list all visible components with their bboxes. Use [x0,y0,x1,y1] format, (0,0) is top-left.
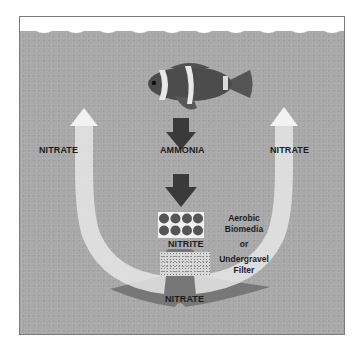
diagram-graphics [20,17,345,335]
filter-text-line5: Filter [213,265,275,276]
down-arrow-icon-2 [165,174,197,207]
nitrate-right-label: NITRATE [270,145,309,155]
clownfish-icon [148,63,253,110]
ammonia-label: AMMONIA [160,145,205,155]
nitrate-left-label: NITRATE [39,145,78,155]
filter-text-line1: Aerobic [213,213,275,224]
nitrate-bottom-label: NITRATE [165,294,204,304]
undergravel-filter-icon [160,252,210,276]
water-surface [20,17,345,33]
filter-text-line2: Biomedia [213,224,275,235]
curved-up-arrow-icon-left [70,108,165,285]
nitrite-label: NITRITE [168,239,204,249]
biomedia-balls [158,212,204,238]
filter-description: Aerobic Biomedia or Undergravel Filter [213,213,275,276]
filter-text-line3: or [213,239,275,250]
aquarium-frame: AMMONIA NITRATE NITRATE NITRITE NITRATE … [19,16,345,335]
filter-text-line4: Undergravel [213,254,275,265]
